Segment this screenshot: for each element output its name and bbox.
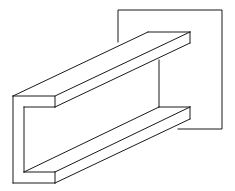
bottom-flange bbox=[13, 107, 190, 183]
c-channel-diagram bbox=[0, 0, 235, 191]
web bbox=[13, 96, 24, 183]
top-flange bbox=[13, 32, 190, 107]
